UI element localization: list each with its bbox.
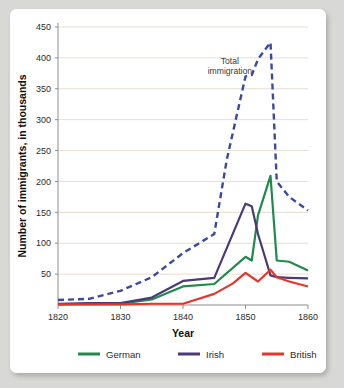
chart-svg: 50100150200250300350400450 1820183018401… xyxy=(10,9,326,373)
y-tick-label: 400 xyxy=(36,53,51,63)
annotation-line-1: Total xyxy=(221,56,239,66)
chart-card: 50100150200250300350400450 1820183018401… xyxy=(10,9,326,373)
legend-label-british: British xyxy=(290,349,317,360)
x-tick-label: 1850 xyxy=(235,312,255,322)
legend-label-german: German xyxy=(106,349,141,360)
y-tick-label: 100 xyxy=(36,238,51,248)
y-tick-label: 150 xyxy=(36,208,51,218)
y-axis-title: Number of immigrants, in thousands xyxy=(16,74,28,257)
y-tick-label: 300 xyxy=(36,115,51,125)
x-tick-label: 1860 xyxy=(298,312,318,322)
y-tick-label: 250 xyxy=(36,146,51,156)
immigration-line-chart: 50100150200250300350400450 1820183018401… xyxy=(10,9,326,373)
y-tick-label: 50 xyxy=(41,269,51,279)
y-tick-label: 450 xyxy=(36,22,51,32)
x-tick-label: 1830 xyxy=(110,312,130,322)
y-tick-label: 350 xyxy=(36,84,51,94)
x-tick-label: 1820 xyxy=(48,312,68,322)
legend-label-irish: Irish xyxy=(206,349,224,360)
annotation-line-2: immigration xyxy=(208,66,253,76)
x-tick-label: 1840 xyxy=(173,312,193,322)
x-axis-title: Year xyxy=(172,327,194,339)
y-tick-label: 200 xyxy=(36,177,51,187)
